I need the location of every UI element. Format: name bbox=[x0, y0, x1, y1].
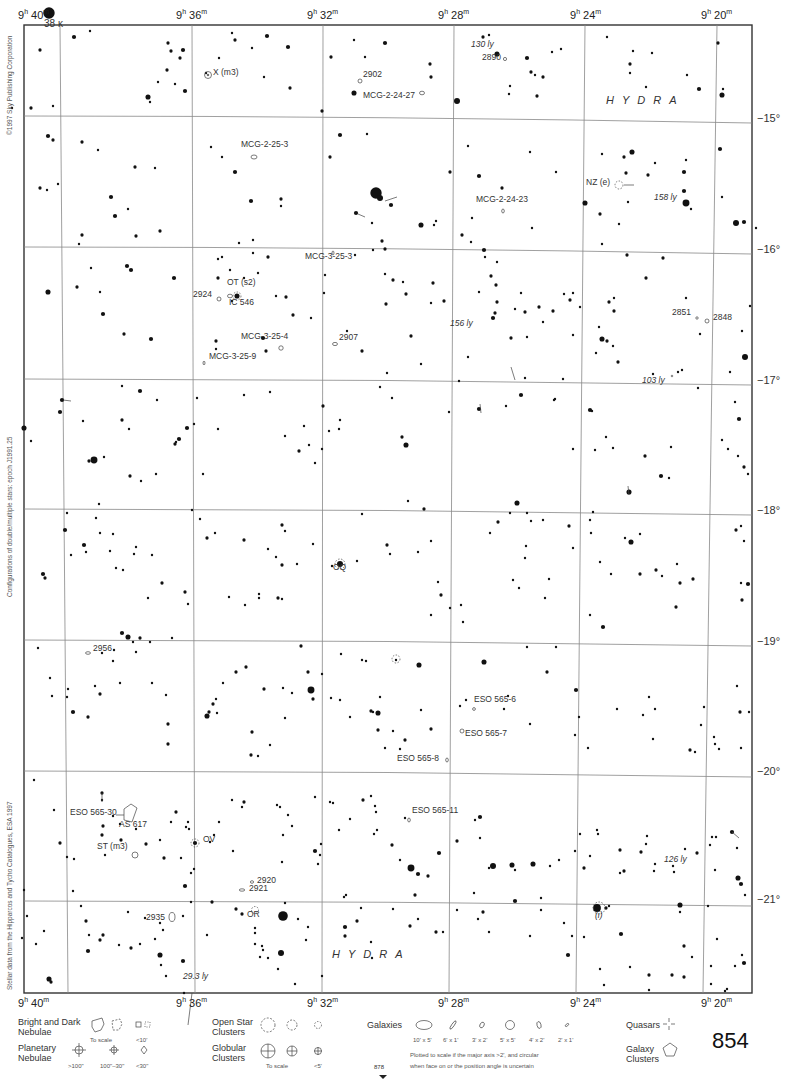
star bbox=[190, 872, 192, 874]
star bbox=[53, 809, 55, 811]
galaxy-2851-icon bbox=[696, 317, 698, 319]
star bbox=[628, 539, 633, 544]
star bbox=[311, 697, 314, 700]
star bbox=[345, 894, 347, 896]
star bbox=[122, 569, 124, 571]
star bbox=[691, 577, 694, 580]
star bbox=[572, 292, 574, 294]
star bbox=[474, 819, 476, 821]
next-page-ref[interactable]: 878 bbox=[374, 1064, 384, 1070]
object-label-eso-565-11: ESO 565-11 bbox=[412, 805, 458, 815]
star bbox=[682, 189, 686, 193]
star bbox=[266, 255, 269, 258]
star bbox=[551, 309, 554, 312]
star bbox=[196, 397, 198, 399]
star bbox=[343, 925, 347, 929]
ra-label: 9h 36m bbox=[176, 996, 207, 1009]
star bbox=[376, 829, 378, 831]
galaxy-2907-icon bbox=[333, 342, 338, 345]
star bbox=[279, 197, 282, 200]
star bbox=[267, 957, 269, 959]
star bbox=[249, 753, 252, 756]
star bbox=[391, 397, 393, 399]
star bbox=[616, 708, 618, 710]
star bbox=[386, 372, 388, 374]
star bbox=[98, 938, 101, 941]
star bbox=[286, 45, 290, 49]
star bbox=[254, 932, 256, 934]
star bbox=[514, 308, 516, 310]
star bbox=[349, 716, 351, 718]
star bbox=[583, 936, 585, 938]
next-page-arrow-icon[interactable] bbox=[379, 1075, 387, 1079]
star bbox=[709, 844, 711, 846]
star bbox=[284, 902, 286, 904]
star bbox=[284, 530, 286, 532]
object-label-mcg-2-24-23: MCG-2-24-23 bbox=[476, 194, 528, 204]
star bbox=[252, 239, 254, 241]
star bbox=[385, 543, 388, 546]
star bbox=[280, 523, 283, 526]
star bbox=[215, 698, 217, 700]
star bbox=[610, 573, 612, 575]
star bbox=[670, 973, 673, 976]
star bbox=[682, 975, 685, 978]
star bbox=[231, 799, 233, 801]
legend-planetary-size-3: <30" bbox=[136, 1060, 148, 1071]
star bbox=[104, 854, 106, 856]
star bbox=[250, 730, 253, 733]
star bbox=[361, 513, 363, 515]
star bbox=[512, 579, 514, 581]
star bbox=[284, 717, 286, 719]
star bbox=[281, 861, 283, 863]
star bbox=[707, 905, 709, 907]
star bbox=[428, 62, 431, 65]
copyright-text: ©1997 Sky Publishing Corporation bbox=[6, 36, 13, 135]
star bbox=[572, 334, 574, 336]
star bbox=[299, 644, 302, 647]
star bbox=[740, 747, 742, 749]
star bbox=[488, 34, 490, 36]
star bbox=[448, 411, 450, 413]
dec-gridlines bbox=[24, 116, 752, 906]
star bbox=[158, 229, 161, 232]
star bbox=[89, 30, 91, 32]
star bbox=[599, 336, 604, 341]
galaxy-mcg-3-25-9-icon bbox=[203, 361, 205, 365]
star bbox=[639, 850, 642, 853]
star bbox=[113, 214, 117, 218]
star bbox=[129, 268, 133, 272]
galaxy-eso-565-11-icon bbox=[408, 818, 411, 822]
star bbox=[743, 540, 745, 542]
star bbox=[133, 165, 136, 168]
star bbox=[448, 170, 451, 173]
star bbox=[606, 36, 608, 38]
star bbox=[721, 439, 723, 441]
legend-quasar-icon bbox=[663, 1018, 675, 1030]
star bbox=[420, 363, 422, 365]
proper-motion-lines bbox=[63, 185, 739, 1025]
object-label-2848: 2848 bbox=[713, 312, 732, 322]
star bbox=[166, 41, 169, 44]
star bbox=[234, 670, 237, 673]
star bbox=[328, 155, 331, 158]
star bbox=[458, 380, 460, 382]
star bbox=[526, 646, 528, 648]
star bbox=[718, 748, 720, 750]
star bbox=[500, 186, 503, 189]
star bbox=[676, 563, 678, 565]
star bbox=[332, 802, 334, 804]
star bbox=[314, 796, 316, 798]
star bbox=[314, 462, 316, 464]
star bbox=[38, 48, 41, 51]
star bbox=[377, 195, 383, 201]
star bbox=[736, 847, 738, 849]
star bbox=[672, 865, 674, 867]
deep-sky-symbols bbox=[86, 57, 710, 921]
star bbox=[321, 404, 324, 407]
star bbox=[321, 673, 323, 675]
star bbox=[518, 587, 520, 589]
star bbox=[375, 710, 380, 715]
star bbox=[166, 722, 169, 725]
star bbox=[154, 167, 156, 169]
